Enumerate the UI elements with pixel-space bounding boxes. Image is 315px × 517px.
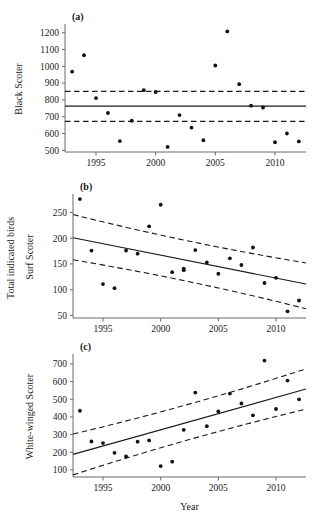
y-tick-label: 250 (53, 208, 68, 218)
x-tick-label: 2005 (209, 483, 228, 493)
data-point (202, 138, 206, 142)
data-point (216, 272, 220, 276)
y-tick-label: 150 (53, 259, 68, 269)
data-point (182, 428, 186, 432)
y-tick-label: 100 (53, 285, 68, 295)
data-point (78, 409, 82, 413)
data-point (286, 309, 290, 313)
trend-line (73, 238, 306, 284)
x-tick-label: 2010 (267, 324, 286, 334)
data-point (228, 256, 232, 260)
y-tick-label: 700 (53, 359, 68, 369)
data-point (237, 82, 241, 86)
data-point (251, 413, 255, 417)
x-tick-label: 1995 (93, 324, 112, 334)
data-point (70, 70, 74, 74)
data-point (166, 145, 170, 149)
y-tick-label: 1000 (40, 62, 59, 72)
panel-label-2: (c) (80, 341, 91, 353)
confidence-band-line (73, 260, 306, 309)
y-tick-label: 200 (53, 448, 68, 458)
x-tick-label: 2010 (267, 483, 286, 493)
data-point (273, 140, 277, 144)
confidence-band-line (73, 369, 306, 434)
data-point (225, 29, 229, 33)
y-tick-label: 700 (45, 112, 60, 122)
data-point (182, 267, 186, 271)
data-point (136, 440, 140, 444)
y-tick-label: 500 (45, 146, 60, 156)
data-point (274, 276, 278, 280)
y-tick-label: 200 (53, 234, 68, 244)
x-axis-title: Year (180, 501, 199, 512)
data-point (205, 424, 209, 428)
x-tick-label: 2000 (151, 324, 170, 334)
data-point (240, 263, 244, 267)
data-point (90, 440, 94, 444)
data-point (285, 132, 289, 136)
data-point (106, 111, 110, 115)
panel-label-1: (b) (80, 181, 92, 193)
x-tick-label: 2000 (151, 483, 170, 493)
data-point (118, 139, 122, 143)
data-point (297, 140, 301, 144)
data-point (113, 286, 117, 290)
y-axis-title: White-winged Scoter (24, 373, 35, 459)
data-point (147, 224, 151, 228)
data-point (216, 409, 220, 413)
data-point (154, 90, 158, 94)
data-point (228, 392, 232, 396)
panel-label-0: (a) (72, 11, 84, 23)
data-point (90, 249, 94, 253)
data-point (261, 106, 265, 110)
data-point (82, 53, 86, 57)
y-tick-label: 50 (58, 311, 68, 321)
data-point (159, 464, 163, 468)
x-tick-label: 2010 (265, 158, 284, 168)
trend-line (73, 389, 306, 454)
y-tick-label: 500 (53, 395, 68, 405)
data-point (193, 391, 197, 395)
data-point (113, 451, 117, 455)
data-point (263, 281, 267, 285)
data-point (142, 88, 146, 92)
data-point (240, 402, 244, 406)
data-point (78, 197, 82, 201)
data-point (297, 397, 301, 401)
figure-canvas: 5006007008009001000110012001995200020052… (0, 0, 315, 517)
data-point (178, 113, 182, 117)
data-point (147, 439, 151, 443)
y-tick-label: 300 (53, 430, 68, 440)
y-axis-title: Surf Scoter (24, 234, 35, 280)
x-tick-label: 1995 (93, 483, 112, 493)
data-point (101, 441, 105, 445)
data-point (274, 407, 278, 411)
data-point (193, 248, 197, 252)
data-point (286, 379, 290, 383)
data-point (124, 455, 128, 459)
data-point (170, 460, 174, 464)
data-point (130, 119, 134, 123)
data-point (101, 282, 105, 286)
x-tick-label: 1995 (87, 158, 106, 168)
data-point (213, 64, 217, 68)
data-point (190, 126, 194, 130)
y-tick-label: 800 (45, 95, 60, 105)
data-point (251, 246, 255, 250)
x-tick-label: 2005 (206, 158, 225, 168)
data-point (297, 299, 301, 303)
data-point (94, 96, 98, 100)
y-tick-label: 400 (53, 412, 68, 422)
y-tick-label: 900 (45, 78, 60, 88)
shared-y-axis-title: Total indicated birds (5, 217, 16, 299)
y-tick-label: 100 (53, 465, 68, 475)
y-tick-label: 1100 (40, 45, 59, 55)
y-tick-label: 1200 (40, 28, 59, 38)
data-point (263, 359, 267, 363)
y-axis-title: Black Scoter (13, 63, 24, 115)
data-point (249, 104, 253, 108)
confidence-band-line (73, 409, 306, 475)
y-tick-label: 600 (45, 129, 60, 139)
data-point (205, 261, 209, 265)
confidence-band-line (73, 215, 306, 263)
